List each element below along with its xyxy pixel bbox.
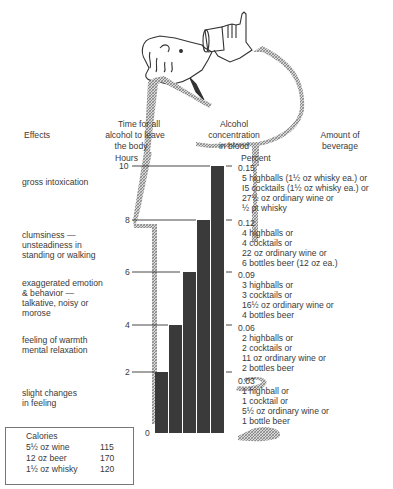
hour-label-8: 8: [125, 215, 130, 225]
bar-0.06: [169, 325, 182, 433]
conc-header-line1: Alcohol: [204, 119, 264, 129]
percent-value: 0.09: [238, 270, 255, 280]
percent-label: Percent: [241, 153, 271, 163]
hour-label-4: 4: [125, 320, 130, 330]
percent-axis-ticks: [226, 166, 232, 372]
calories-value-whisky: 120: [100, 464, 114, 474]
hour-label-2: 2: [125, 367, 130, 377]
conc-header-line3: in blood: [204, 141, 264, 151]
calories-value-beer: 170: [100, 453, 114, 463]
percent-value: 0.12: [238, 218, 255, 228]
head-drawing: [142, 12, 252, 100]
bar-0.03: [155, 372, 168, 433]
time-header-line3: the body: [106, 141, 156, 151]
percent-value: 0.15: [238, 163, 255, 173]
hour-label-10: 10: [119, 161, 129, 171]
calories-item-beer: 12 oz beer: [26, 453, 67, 463]
bar-0.12: [197, 220, 210, 433]
amount-header-line1: Amount of: [310, 130, 370, 140]
conc-header-line2: concentration: [204, 130, 264, 140]
hour-label-0: 0: [145, 428, 150, 438]
percent-value: 0.03: [238, 376, 255, 386]
calories-value-wine: 115: [100, 442, 114, 452]
calories-box: [5, 427, 134, 485]
time-header-line1: Time for all: [104, 119, 174, 129]
calories-title: Calories: [26, 431, 58, 441]
bar-0.09: [183, 272, 196, 433]
time-header-line2: alcohol to leave: [100, 130, 170, 140]
effects-header: Effects: [24, 130, 50, 140]
bar-0.15: [211, 166, 224, 433]
calories-item-wine: 5½ oz wine: [26, 442, 69, 452]
hour-label-6: 6: [125, 267, 130, 277]
percent-value: 0.06: [238, 323, 255, 333]
calories-item-whisky: 1½ oz whisky: [26, 464, 78, 474]
amount-header-line2: beverage: [310, 141, 370, 151]
